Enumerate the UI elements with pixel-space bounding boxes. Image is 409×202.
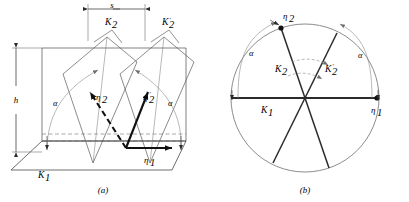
k2-leader-b xyxy=(112,30,122,43)
eta1-point-marker xyxy=(374,95,379,100)
height-label: h xyxy=(14,95,19,105)
eta2-label: η xyxy=(96,92,101,102)
label-k2-prime-b: K 2 ′ xyxy=(324,62,338,77)
height-dimension-h: h xyxy=(12,48,42,152)
alpha-left-arc xyxy=(47,70,98,148)
figure-svg: s h xyxy=(0,0,409,202)
plane-k1-subscript-b: 1 xyxy=(268,107,273,118)
alpha-right-b: α xyxy=(340,24,378,100)
plane-k1-label-b: K xyxy=(260,105,268,115)
eta2-point-marker xyxy=(278,25,283,30)
eta2-subscript: 2 xyxy=(102,94,108,105)
plane-k1-subscript: 1 xyxy=(45,172,50,183)
shear-distance-label: s xyxy=(110,0,114,10)
label-eta1-b: η 1 xyxy=(371,105,382,118)
eta1-label-b: η xyxy=(371,105,376,115)
base-plane-outline xyxy=(11,141,186,170)
label-k1-a: K 1 xyxy=(37,170,50,183)
label-k2-a: K 2 xyxy=(104,17,118,30)
plane-k1-label: K xyxy=(37,170,45,180)
plane-k2-subscript: 2 xyxy=(112,19,118,30)
vector-eta1-a: η 1 xyxy=(126,148,172,168)
alpha-right-label: α xyxy=(168,98,173,108)
alpha-left-label: α xyxy=(53,98,58,108)
eta1-subscript-b: 1 xyxy=(377,107,382,118)
alpha-left-arc-b xyxy=(238,22,276,98)
label-k2-b: K 2 xyxy=(274,64,288,77)
inner-arc-upper xyxy=(292,59,328,65)
plane-k2-label-b: K xyxy=(274,64,282,74)
k2-prime-leader-b xyxy=(169,30,179,43)
panel-a-caption: (a) xyxy=(98,185,109,195)
label-k1-b: K 1 xyxy=(260,105,273,118)
eta2-prime-label: η xyxy=(143,92,148,102)
plane-k2-prime-label: K xyxy=(161,17,169,27)
panel-b-caption: (b) xyxy=(300,185,311,195)
plane-k2-prime xyxy=(120,37,194,163)
figure-root: s h xyxy=(0,0,409,202)
panel-a: s h xyxy=(11,0,194,195)
alpha-right-label-b: α xyxy=(358,50,363,60)
alpha-left-b: α xyxy=(232,22,276,100)
eta2-label-b: η xyxy=(283,11,288,21)
label-k2-prime-a: K 2 ′ xyxy=(161,16,175,30)
vector-eta2-prime-a: η 2 ′ xyxy=(126,90,155,148)
eta1-subscript: 1 xyxy=(150,157,155,168)
plane-k2-prime-label-b: K xyxy=(324,64,332,74)
inner-angle-arcs-b xyxy=(288,59,328,79)
eta1-label: η xyxy=(144,155,149,165)
plane-k2-label: K xyxy=(104,17,112,27)
alpha-left-label-b: α xyxy=(249,48,254,58)
eta2-subscript-b: 2 xyxy=(289,13,295,24)
panel-b: α α η 2 η 1 K 2 K xyxy=(231,11,382,195)
alpha-right-arc-b xyxy=(340,24,372,98)
plane-k2-subscript-b: 2 xyxy=(282,66,288,77)
